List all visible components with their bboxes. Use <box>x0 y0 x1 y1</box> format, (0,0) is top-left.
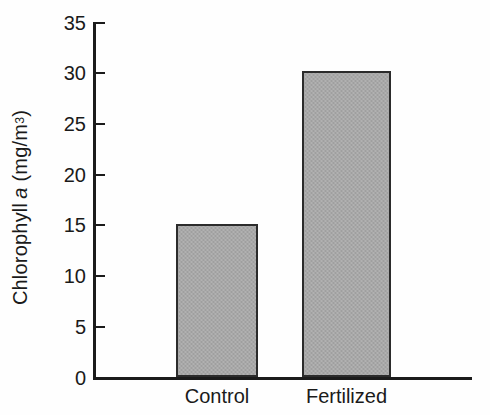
y-axis-tick-labels: 05101520253035 <box>38 0 86 415</box>
y-tick-label-20: 20 <box>42 165 86 185</box>
x-axis-label-fertilized: Fertilized <box>302 386 391 406</box>
bar-control <box>176 224 258 377</box>
y-tick-label-35: 35 <box>42 13 86 33</box>
x-axis-label-control: Control <box>176 386 258 406</box>
y-tick-30 <box>96 72 105 74</box>
x-axis-line <box>93 377 472 380</box>
y-tick-label-15: 15 <box>42 215 86 235</box>
y-axis-title-prefix: Chlorophyll <box>9 203 32 305</box>
y-tick-10 <box>96 275 105 277</box>
bar-fertilized <box>302 71 391 377</box>
y-tick-15 <box>96 224 105 226</box>
y-tick-label-0: 0 <box>42 368 86 388</box>
y-tick-35 <box>96 22 105 24</box>
y-axis-title-units: (mg/m <box>9 124 32 182</box>
y-tick-5 <box>96 326 105 328</box>
y-tick-label-10: 10 <box>42 266 86 286</box>
y-axis-title-units-close: ) <box>9 110 32 117</box>
y-axis-title-symbol: a <box>9 182 32 203</box>
y-axis-title: Chlorophyll a (mg/m3) <box>0 0 40 415</box>
chart-figure: Chlorophyll a (mg/m3) 05101520253035 Con… <box>0 0 490 415</box>
y-tick-25 <box>96 123 105 125</box>
y-tick-label-30: 30 <box>42 63 86 83</box>
y-tick-label-25: 25 <box>42 114 86 134</box>
y-tick-label-5: 5 <box>42 317 86 337</box>
y-tick-20 <box>96 174 105 176</box>
